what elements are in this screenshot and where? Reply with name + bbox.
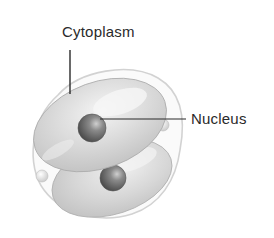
upper-nucleus <box>78 114 106 142</box>
embryo-diagram: Cytoplasm Nucleus <box>0 0 274 238</box>
polar-body-left <box>36 170 48 182</box>
nucleus-label: Nucleus <box>191 111 247 126</box>
cytoplasm-label: Cytoplasm <box>62 24 135 39</box>
